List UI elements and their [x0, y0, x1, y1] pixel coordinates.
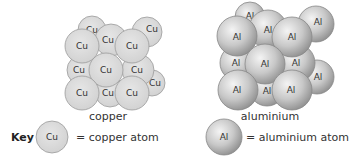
svg-text:Cu: Cu: [131, 65, 143, 75]
svg-text:Al: Al: [232, 58, 241, 68]
svg-text:Cu: Cu: [76, 88, 88, 98]
copper-caption: copper: [89, 110, 128, 123]
svg-text:Cu: Cu: [46, 132, 58, 142]
key: Key Cu = copper atom Al = aluminium atom: [11, 119, 349, 155]
svg-text:Cu: Cu: [73, 65, 85, 75]
svg-text:Cu: Cu: [126, 41, 138, 51]
svg-text:Cu: Cu: [126, 88, 138, 98]
svg-text:Cu: Cu: [146, 24, 158, 34]
aluminium-caption: aluminium: [241, 110, 299, 123]
copper-atom: Cu: [65, 76, 99, 110]
svg-text:Cu: Cu: [100, 65, 112, 75]
svg-text:Al: Al: [287, 85, 296, 95]
copper-lattice: Cu Cu Cu Cu Cu Cu Cu Cu Cu Cu Cu Cu copp…: [65, 16, 165, 123]
aluminium-lattice: Al Al Al Al Al Al Al Al Al Al Al Al alum…: [217, 2, 334, 123]
svg-text:Cu: Cu: [76, 41, 88, 51]
copper-atom: Cu: [115, 76, 149, 110]
svg-text:Al: Al: [292, 58, 301, 68]
key-copper-atom: Cu: [36, 121, 68, 153]
svg-text:Al: Al: [233, 85, 242, 95]
key-aluminium-atom: Al: [206, 119, 242, 155]
copper-atom: Cu: [115, 29, 149, 63]
svg-text:Al: Al: [314, 17, 323, 27]
key-aluminium-label: = aluminium atom: [246, 131, 349, 144]
svg-text:Al: Al: [288, 32, 297, 42]
aluminium-atom: Al: [272, 70, 312, 110]
svg-text:Cu: Cu: [102, 35, 114, 45]
key-copper-label: = copper atom: [76, 131, 159, 144]
svg-text:Al: Al: [233, 32, 242, 42]
svg-text:Al: Al: [264, 25, 273, 35]
svg-text:Cu: Cu: [102, 88, 114, 98]
aluminium-atom: Al: [218, 70, 258, 110]
svg-text:Al: Al: [263, 86, 272, 96]
metal-lattice-diagram: Cu Cu Cu Cu Cu Cu Cu Cu Cu Cu Cu Cu copp…: [0, 0, 355, 160]
svg-text:Al: Al: [314, 72, 323, 82]
key-heading: Key: [11, 131, 34, 144]
svg-text:Al: Al: [261, 59, 270, 69]
svg-text:Al: Al: [220, 132, 229, 142]
